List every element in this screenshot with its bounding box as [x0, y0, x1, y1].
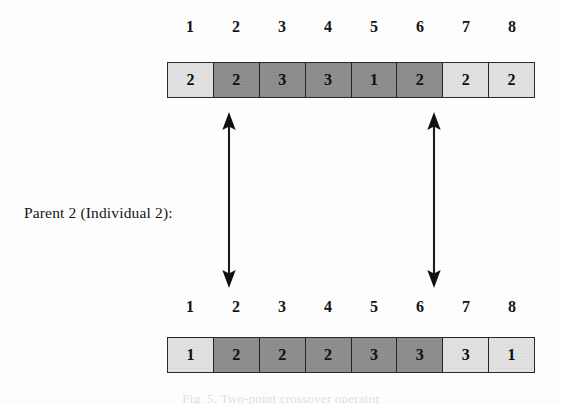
gene-cell: 1	[489, 338, 534, 372]
gene-value: 3	[462, 347, 470, 363]
gene-index-label: 5	[351, 294, 397, 320]
gene-cell: 3	[443, 338, 489, 372]
gene-cell: 2	[214, 63, 260, 97]
gene-index-label: 2	[213, 294, 259, 320]
gene-value: 2	[278, 347, 286, 363]
gene-index-label: 1	[167, 14, 213, 40]
crossover-figure: 1 2 3 4 5 6 7 8 2 2 3 3 1 2 2 2 Parent	[0, 0, 562, 404]
gene-value: 3	[370, 347, 378, 363]
gene-index-label: 3	[259, 14, 305, 40]
gene-cell: 2	[260, 338, 306, 372]
gene-index-header-top: 1 2 3 4 5 6 7 8	[167, 14, 535, 40]
gene-index-label: 6	[397, 14, 443, 40]
gene-index-label: 6	[397, 294, 443, 320]
parent-2-label: Parent 2 (Individual 2):	[24, 203, 173, 223]
gene-index-label: 4	[305, 294, 351, 320]
gene-value: 3	[278, 72, 286, 88]
gene-index-label: 8	[489, 294, 535, 320]
gene-value: 2	[324, 347, 332, 363]
gene-index-header-bottom: 1 2 3 4 5 6 7 8	[167, 294, 535, 320]
chromosome-row-parent-1: 2 2 3 3 1 2 2 2	[167, 62, 535, 98]
gene-cell: 3	[397, 338, 443, 372]
gene-value: 3	[324, 72, 332, 88]
gene-value: 2	[232, 347, 240, 363]
gene-cell: 2	[397, 63, 443, 97]
gene-value: 2	[186, 72, 194, 88]
gene-cell: 3	[352, 338, 398, 372]
gene-index-label: 7	[443, 14, 489, 40]
gene-index-label: 8	[489, 14, 535, 40]
gene-cell: 3	[306, 63, 352, 97]
double-headed-arrow-icon	[218, 112, 240, 288]
gene-cell: 2	[306, 338, 352, 372]
gene-cell: 1	[168, 338, 214, 372]
figure-caption: Fig. 5. Two-point crossover operator	[0, 391, 562, 404]
gene-cell: 1	[352, 63, 398, 97]
gene-cell: 2	[168, 63, 214, 97]
gene-value: 2	[508, 72, 516, 88]
gene-cell: 2	[443, 63, 489, 97]
gene-index-label: 5	[351, 14, 397, 40]
gene-cell: 2	[489, 63, 534, 97]
gene-value: 2	[462, 72, 470, 88]
gene-value: 1	[508, 347, 516, 363]
double-headed-arrow-icon	[423, 112, 445, 288]
crossover-arrow-right	[423, 112, 445, 288]
gene-index-label: 3	[259, 294, 305, 320]
gene-value: 2	[232, 72, 240, 88]
gene-index-label: 7	[443, 294, 489, 320]
gene-value: 1	[370, 72, 378, 88]
gene-value: 2	[416, 72, 424, 88]
gene-cell: 2	[214, 338, 260, 372]
crossover-arrow-left	[218, 112, 240, 288]
gene-index-label: 4	[305, 14, 351, 40]
chromosome-row-parent-2: 1 2 2 2 3 3 3 1	[167, 337, 535, 373]
gene-index-label: 2	[213, 14, 259, 40]
gene-value: 1	[186, 347, 194, 363]
gene-index-label: 1	[167, 294, 213, 320]
gene-value: 3	[416, 347, 424, 363]
gene-cell: 3	[260, 63, 306, 97]
